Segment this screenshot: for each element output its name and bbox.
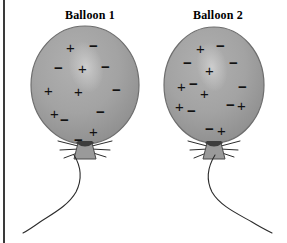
balloon-1-title: Balloon 1 (52, 8, 128, 23)
positive-charge-symbol: + (50, 106, 59, 121)
balloon-1-string (23, 155, 80, 233)
negative-charge-symbol: − (229, 55, 238, 70)
positive-charge-symbol: + (44, 83, 53, 98)
negative-charge-symbol: − (54, 60, 63, 75)
balloon-2-title: Balloon 2 (180, 8, 256, 23)
balloon-1-group (23, 26, 139, 233)
negative-charge-symbol: − (74, 132, 83, 147)
negative-charge-symbol: − (187, 103, 196, 118)
negative-charge-symbol: − (96, 104, 105, 119)
negative-charge-symbol: − (226, 97, 235, 112)
negative-charge-symbol: − (216, 38, 225, 53)
positive-charge-symbol: + (78, 61, 87, 76)
positive-charge-symbol: + (200, 86, 209, 101)
negative-charge-symbol: − (112, 82, 121, 97)
negative-charge-symbol: − (101, 59, 110, 74)
positive-charge-symbol: + (177, 79, 186, 94)
balloon-charge-figure: Balloon 1 Balloon 2 +−−+−++−+−−+− +−−+−+… (0, 0, 287, 243)
positive-charge-symbol: + (175, 99, 184, 114)
negative-charge-symbol: − (238, 79, 247, 94)
positive-charge-symbol: + (217, 123, 226, 138)
positive-charge-symbol: + (89, 124, 98, 139)
negative-charge-symbol: − (89, 38, 98, 53)
negative-charge-symbol: − (205, 121, 214, 136)
balloons-illustration (0, 0, 287, 243)
balloon-2-string (208, 155, 272, 233)
negative-charge-symbol: − (183, 55, 192, 70)
negative-charge-symbol: − (60, 112, 69, 127)
positive-charge-symbol: + (66, 40, 75, 55)
positive-charge-symbol: + (196, 41, 205, 56)
positive-charge-symbol: + (74, 84, 83, 99)
positive-charge-symbol: + (205, 63, 214, 78)
positive-charge-symbol: + (237, 98, 246, 113)
negative-charge-symbol: − (189, 76, 198, 91)
